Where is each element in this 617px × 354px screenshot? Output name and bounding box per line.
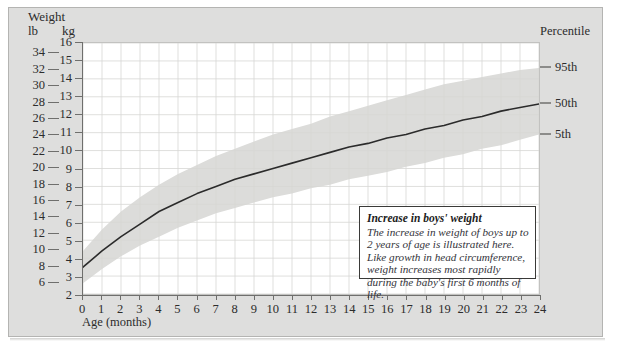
x-axis-tick-label: 7 (212, 302, 218, 317)
x-axis-tick-label: 24 (534, 302, 547, 317)
annotation-callout: Increase in boys' weight The increase in… (359, 206, 536, 279)
x-axis-tick (540, 295, 541, 300)
lb-axis-tick (48, 200, 59, 201)
lb-axis-tick-label: 20 (20, 160, 45, 175)
kg-axis-tick-label: 15 (60, 53, 73, 68)
kg-axis-tick (75, 78, 83, 79)
kg-axis-tick-label: 4 (66, 251, 72, 266)
lb-axis-tick-label: 22 (20, 143, 45, 158)
x-axis-tick-label: 17 (400, 302, 413, 317)
percentile-dash-icon (540, 103, 551, 104)
kg-axis-tick-label: 2 (66, 288, 72, 303)
growth-chart-figure: Weight lb kg Percentile 2345678910111213… (0, 0, 617, 354)
lb-axis-tick-label: 26 (20, 111, 45, 126)
x-axis-tick (158, 295, 159, 300)
lb-axis-tick-label: 16 (20, 192, 45, 207)
lb-axis-tick (48, 52, 59, 53)
kg-axis-tick-label: 8 (66, 179, 72, 194)
lb-unit-label: lb (28, 24, 38, 38)
kg-axis-tick-label: 11 (60, 125, 72, 140)
percentile-dash-icon (540, 67, 551, 68)
lb-axis-tick (48, 167, 59, 168)
percentile-axis-title: Percentile (540, 24, 590, 38)
x-axis-title: Age (months) (82, 315, 151, 330)
lb-axis-tick (48, 184, 59, 185)
card-drop-shadow (10, 338, 605, 341)
lb-axis-tick-label: 24 (20, 127, 45, 142)
kg-axis-tick-label: 12 (60, 107, 73, 122)
x-axis-tick (311, 295, 312, 300)
x-axis-tick-label: 10 (267, 302, 280, 317)
x-axis-tick-label: 6 (193, 302, 199, 317)
kg-axis-tick-label: 16 (60, 35, 73, 50)
kg-axis-tick (75, 132, 83, 133)
x-axis-tick-label: 21 (477, 302, 490, 317)
percentile-label: 95th (555, 60, 577, 75)
x-axis-tick (177, 295, 178, 300)
x-axis-tick-label: 12 (305, 302, 318, 317)
lb-axis-tick (48, 134, 59, 135)
percentile-dash-icon (540, 134, 551, 135)
x-axis-tick (82, 295, 83, 300)
x-axis-tick (101, 295, 102, 300)
kg-axis-tick-label: 5 (66, 233, 72, 248)
kg-axis-tick-label: 14 (60, 71, 73, 86)
x-axis-tick (120, 295, 121, 300)
lb-axis-tick-label: 34 (20, 45, 45, 60)
x-axis-tick-label: 5 (174, 302, 180, 317)
x-axis-tick (330, 295, 331, 300)
x-axis-tick-label: 23 (515, 302, 528, 317)
lb-axis-tick (48, 102, 59, 103)
lb-axis-tick (48, 266, 59, 267)
x-axis-tick-label: 11 (286, 302, 298, 317)
percentile-label: 50th (555, 96, 577, 111)
lb-axis-tick-label: 6 (20, 274, 45, 289)
x-axis-tick (216, 295, 217, 300)
kg-axis-tick-label: 7 (66, 197, 72, 212)
weight-axis-title: Weight (28, 10, 65, 24)
callout-title: Increase in boys' weight (367, 212, 529, 225)
x-axis-tick (254, 295, 255, 300)
lb-axis: 6810121416182022242628303234 (20, 42, 60, 295)
kg-axis-tick-label: 13 (60, 89, 73, 104)
kg-axis-tick (75, 42, 83, 43)
x-axis-tick-label: 18 (419, 302, 432, 317)
x-axis-tick (197, 295, 198, 300)
x-axis-tick-label: 14 (343, 302, 356, 317)
kg-axis-tick (75, 96, 83, 97)
kg-axis-tick-label: 10 (60, 143, 73, 158)
x-axis-tick-label: 22 (496, 302, 509, 317)
lb-axis-tick-label: 32 (20, 61, 45, 76)
x-axis-tick (349, 295, 350, 300)
lb-axis-tick-label: 10 (20, 242, 45, 257)
lb-axis-tick (48, 282, 59, 283)
x-axis-tick-label: 19 (438, 302, 451, 317)
kg-axis-tick (75, 150, 83, 151)
lb-axis-tick-label: 28 (20, 94, 45, 109)
lb-axis-tick-label: 12 (20, 225, 45, 240)
x-axis-tick-label: 16 (381, 302, 394, 317)
kg-axis-tick (75, 205, 83, 206)
percentile-label: 5th (555, 127, 571, 142)
x-axis-tick (235, 295, 236, 300)
percentile-marker: 95th (540, 60, 577, 75)
lb-axis-tick (48, 249, 59, 250)
x-axis-tick-label: 20 (457, 302, 470, 317)
x-axis-tick (273, 295, 274, 300)
x-axis-tick-label: 15 (362, 302, 375, 317)
x-axis-tick (292, 295, 293, 300)
lb-axis-tick-label: 14 (20, 209, 45, 224)
kg-axis-tick (75, 277, 83, 278)
lb-axis-tick (48, 216, 59, 217)
x-axis-tick-label: 4 (155, 302, 161, 317)
lb-axis-tick-label: 30 (20, 78, 45, 93)
x-axis-tick (139, 295, 140, 300)
lb-axis-tick-label: 8 (20, 258, 45, 273)
lb-axis-tick (48, 233, 59, 234)
percentile-labels: 95th50th5th (540, 42, 612, 295)
kg-axis-tick (75, 169, 83, 170)
lb-axis-tick-label: 18 (20, 176, 45, 191)
x-axis-tick-label: 13 (324, 302, 337, 317)
kg-axis-tick-label: 6 (66, 215, 72, 230)
kg-axis-tick (75, 223, 83, 224)
